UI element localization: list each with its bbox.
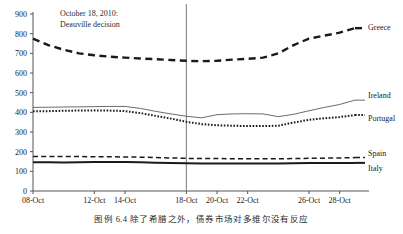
y-tick-label: 300 [0,128,27,137]
y-tick-label: 900 [0,10,27,19]
figure-caption: 图例 6.4 除了希腊之外，债券市场对多维尔没有反应 [0,212,403,224]
annotation-line-2: Deauville decision [60,19,120,30]
y-tick-label: 100 [0,167,27,176]
x-tick-label: 08-Oct [22,196,44,205]
series-group [33,28,355,163]
series-line-greece [33,28,355,61]
deauville-annotation: October 18, 2010: Deauville decision [60,8,120,30]
y-tick-label: 500 [0,88,27,97]
x-tick-label: 28-Oct [329,196,351,205]
x-tick-label: 18-Oct [175,196,197,205]
y-tick-label: 700 [0,49,27,58]
x-tick-label: 22-Oct [237,196,259,205]
y-tick-label: 600 [0,69,27,78]
series-label-ireland: Ireland [368,91,391,100]
legend-marker-group [355,28,365,163]
y-tick-label: 400 [0,108,27,117]
annotation-line-1: October 18, 2010: [60,8,120,19]
y-tick-label: 200 [0,147,27,156]
series-label-spain: Spain [368,149,386,158]
x-tick-label: 20-Oct [206,196,228,205]
series-line-portugal [33,110,355,126]
series-line-ireland [33,100,355,118]
x-tick-label: 12-Oct [83,196,105,205]
axes-group [30,12,369,194]
series-line-italy [33,162,355,163]
x-tick-label: 14-Oct [114,196,136,205]
y-tick-label: 800 [0,29,27,38]
y-tick-label: 0 [0,187,27,196]
figure-container: 0100200300400500600700800900 08-Oct12-Oc… [0,0,403,234]
series-line-spain [33,156,355,158]
series-label-portugal: Portugal [368,114,395,123]
series-label-italy: Italy [368,164,383,173]
x-tick-label: 26-Oct [298,196,320,205]
series-label-greece: Greece [368,23,391,32]
